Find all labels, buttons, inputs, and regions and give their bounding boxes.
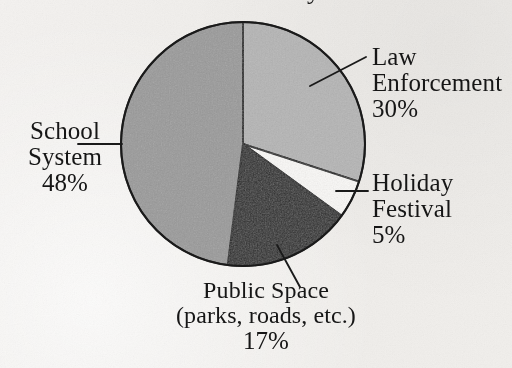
pie-slice-school-system [121, 22, 243, 265]
slice-label-school-system: School System 48% [12, 118, 118, 196]
slice-value-holiday: 5% [372, 222, 453, 248]
pie-chart-figure: Where the Money Goes Law Enforcement 30%… [0, 0, 512, 368]
cropped-title-text: Where the Money Goes [132, 0, 380, 6]
slice-value-law: 30% [372, 96, 502, 122]
slice-label-public-line2: (parks, roads, etc.) [176, 302, 356, 328]
slice-label-holiday-festival: Holiday Festival 5% [372, 170, 453, 248]
slice-label-law-enforcement: Law Enforcement 30% [372, 44, 502, 122]
slice-label-holiday-line1: Holiday [372, 169, 453, 196]
slice-value-public: 17% [140, 328, 392, 354]
slice-label-public-line1: Public Space [203, 277, 329, 303]
slice-label-law-line1: Law [372, 43, 417, 70]
slice-label-holiday-line2: Festival [372, 195, 452, 222]
slice-label-public-space: Public Space (parks, roads, etc.) 17% [140, 278, 392, 354]
cropped-title: Where the Money Goes [0, 0, 512, 7]
slice-label-school-line2: System [28, 143, 102, 170]
slice-label-school-line1: School [30, 117, 100, 144]
pie-slices [121, 22, 365, 266]
slice-value-school: 48% [12, 170, 118, 196]
slice-label-law-line2: Enforcement [372, 69, 502, 96]
